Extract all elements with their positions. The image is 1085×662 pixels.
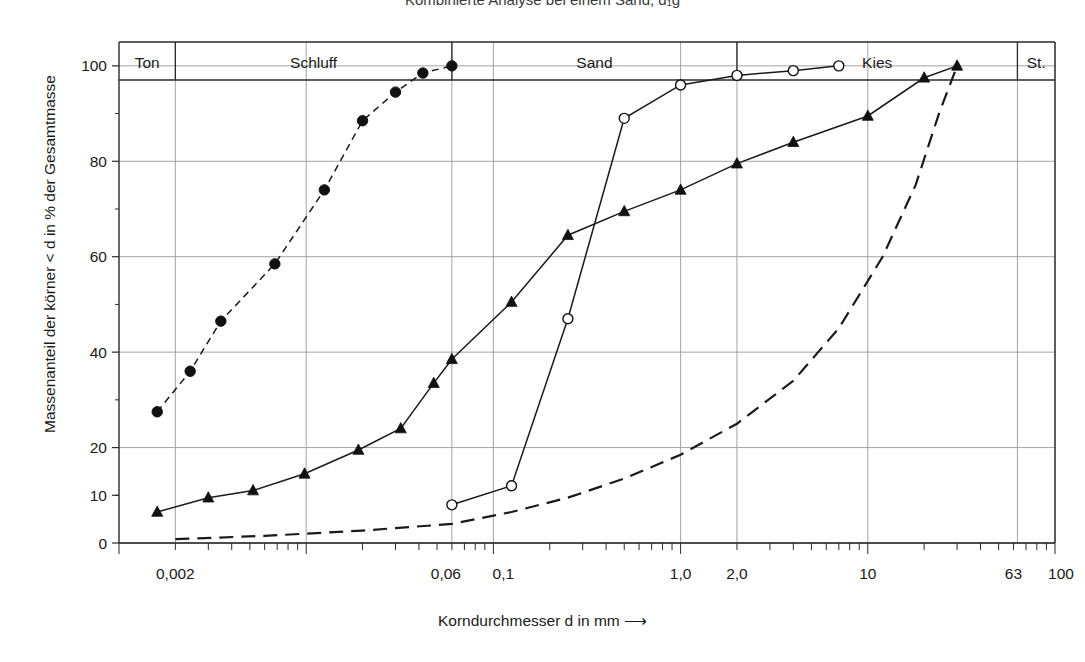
x-tick-label: 2,0 xyxy=(726,565,748,582)
chart-page: Kombinierte Analyse bei einem Sand, d₁g … xyxy=(0,0,1085,662)
data-point-filled-circle xyxy=(447,61,457,71)
series-line-3 xyxy=(175,66,957,539)
chart-canvas: TonSchluffSandKiesSt.010204060801000,002… xyxy=(0,0,1085,662)
x-tick-label: 0,1 xyxy=(493,565,515,582)
data-point-open-circle xyxy=(676,80,686,90)
data-point-open-circle xyxy=(834,61,844,71)
y-tick-label: 40 xyxy=(90,344,108,361)
data-point-filled-circle xyxy=(390,87,400,97)
data-point-filled-triangle xyxy=(675,184,686,194)
data-point-filled-circle xyxy=(152,407,162,417)
series-line-1 xyxy=(157,66,957,512)
data-point-open-circle xyxy=(447,500,457,510)
data-point-filled-circle xyxy=(270,259,280,269)
category-label-schluff: Schluff xyxy=(290,54,338,71)
y-tick-label: 60 xyxy=(90,248,108,265)
data-point-filled-triangle xyxy=(299,468,310,478)
data-point-open-circle xyxy=(732,70,742,80)
data-point-filled-circle xyxy=(357,116,367,126)
category-label-sand: Sand xyxy=(576,54,612,71)
x-tick-label: 0,06 xyxy=(431,565,461,582)
data-point-open-circle xyxy=(619,113,629,123)
y-tick-label: 0 xyxy=(98,535,107,552)
data-point-filled-triangle xyxy=(353,444,364,454)
category-label-st: St. xyxy=(1027,54,1046,71)
y-tick-label: 10 xyxy=(90,487,108,504)
x-tick-label: 63 xyxy=(1005,565,1022,582)
y-tick-label: 80 xyxy=(90,153,108,170)
data-point-open-circle xyxy=(507,481,517,491)
x-tick-label: 100 xyxy=(1048,565,1074,582)
x-tick-label: 0,002 xyxy=(156,565,195,582)
y-tick-label: 100 xyxy=(81,57,107,74)
category-label-ton: Ton xyxy=(135,54,160,71)
series-line-2 xyxy=(452,66,839,505)
x-tick-label: 10 xyxy=(859,565,877,582)
data-point-filled-triangle xyxy=(862,110,873,120)
category-label-kies: Kies xyxy=(862,54,892,71)
data-point-open-circle xyxy=(788,66,798,76)
data-point-filled-circle xyxy=(185,366,195,376)
y-tick-label: 20 xyxy=(90,439,108,456)
x-tick-label: 1,0 xyxy=(670,565,692,582)
data-point-filled-triangle xyxy=(952,60,963,70)
data-point-filled-circle xyxy=(216,316,226,326)
series-line-0 xyxy=(157,66,452,412)
data-point-open-circle xyxy=(563,314,573,324)
data-point-filled-circle xyxy=(319,185,329,195)
data-point-filled-circle xyxy=(418,68,428,78)
